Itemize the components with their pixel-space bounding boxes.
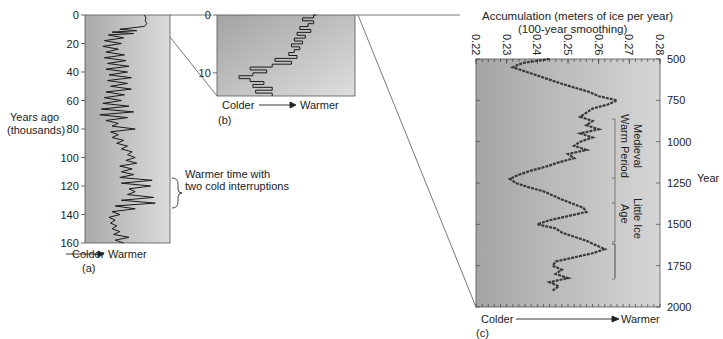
panel-b-xlabel-colder: Colder	[222, 99, 254, 111]
panel-b-label: (b)	[218, 114, 231, 126]
tick-label: 20	[67, 38, 79, 50]
panel-c-plot-area	[476, 59, 660, 307]
tick-label: 0.27	[623, 34, 635, 55]
tick-label: 750	[667, 94, 685, 106]
panel-c-title: Accumulation (meters of ice per year)	[482, 10, 673, 22]
panel-c-xlabel-colder: Colder	[481, 313, 513, 325]
panel-b-y-ticks	[213, 15, 217, 73]
panel-a-xlabel-colder: Colder	[72, 248, 104, 260]
tick-label: 1000	[667, 136, 691, 148]
tick-label: 0	[73, 9, 79, 21]
tick-label: 120	[60, 180, 78, 192]
tick-label: 80	[67, 123, 79, 135]
tick-label: 1500	[667, 218, 691, 230]
tick-label: 0.28	[654, 34, 666, 55]
panel-b-xlabel-warmer: Warmer	[300, 99, 339, 111]
panel-c-xlabel-warmer: Warmer	[621, 313, 660, 325]
tick-label: 100	[60, 152, 78, 164]
tick-label: 140	[60, 209, 78, 221]
panel-c-ylabel: Year	[697, 172, 719, 184]
panel-c-annotation-lia-line1: Little Ice	[632, 198, 644, 239]
figure-canvas	[0, 0, 723, 339]
panel-b-plot-area	[217, 15, 355, 96]
tick-label: 60	[67, 95, 79, 107]
panel-a-ylabel-line2: (thousands)	[7, 124, 65, 136]
panel-c-annotation-lia-line2: Age	[619, 204, 631, 224]
panel-c-label: (c)	[476, 327, 489, 339]
panel-a-y-ticks	[81, 15, 85, 243]
tick-label: 1750	[667, 260, 691, 272]
panel-a-annotation-brace	[172, 178, 182, 208]
panel-a-annotation-line2: two cold interruptions	[185, 180, 289, 192]
panel-a-xlabel-warmer: Warmer	[108, 248, 147, 260]
tick-label: 0.25	[562, 34, 574, 55]
panel-a-plot-area	[85, 15, 170, 243]
tick-label: 0.23	[501, 34, 513, 55]
panel-c-annotation-medieval-line1: Medieval	[632, 124, 644, 168]
tick-label: 40	[67, 66, 79, 78]
tick-label: 0	[205, 9, 211, 21]
tick-label: 1250	[667, 177, 691, 189]
tick-label: 2000	[667, 301, 691, 313]
panel-c-annotation-medieval-line2: Warm Period	[619, 114, 631, 178]
tick-label: 0.26	[593, 34, 605, 55]
panel-a-annotation-line1: Warmer time with	[185, 168, 270, 180]
panel-a-ylabel-line1: Years ago	[10, 111, 59, 123]
tick-label: 500	[667, 53, 685, 65]
tick-label: 10	[199, 67, 211, 79]
tick-label: 0.22	[470, 34, 482, 55]
panel-a-label: (a)	[82, 262, 95, 274]
tick-label: 0.24	[531, 34, 543, 55]
